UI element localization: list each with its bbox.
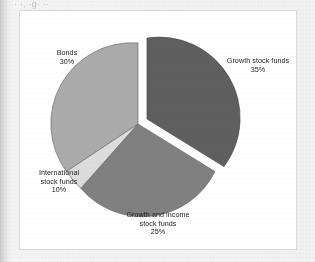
chart-panel: Growth stock funds 35% Growth and income…	[20, 11, 296, 249]
pie-label-growth-and-income-stock-funds: Growth and income stock funds 25%	[102, 211, 214, 237]
screenshot-root: · ·, ·g· ·· Growth stock funds 35% Growt…	[0, 0, 315, 262]
pie-label-growth-stock-funds: Growth stock funds 35%	[216, 57, 300, 74]
pie-chart: Growth stock funds 35% Growth and income…	[20, 11, 296, 249]
pie-label-bonds: Bonds 30%	[30, 49, 104, 66]
pie-label-international-stock-funds: International stock funds 10%	[16, 169, 102, 195]
page-running-header: · ·, ·g· ··	[14, 0, 164, 9]
